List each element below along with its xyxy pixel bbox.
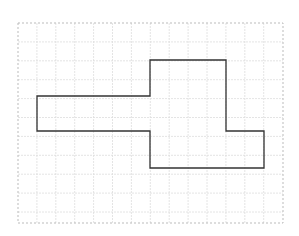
grid-diagram xyxy=(0,0,299,236)
grid-lines xyxy=(18,23,283,223)
